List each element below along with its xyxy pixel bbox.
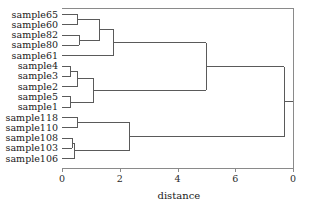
x-tick-label-1: 2 xyxy=(105,173,135,184)
x-axis-title: distance xyxy=(158,190,201,201)
x-tick-1 xyxy=(120,168,121,172)
x-tick-3 xyxy=(235,168,236,172)
x-tick-label-3: 6 xyxy=(220,173,250,184)
x-tick-2 xyxy=(178,168,179,172)
x-tick-label-4: 0 xyxy=(278,173,308,184)
x-tick-label-2: 4 xyxy=(163,173,193,184)
dendrogram-figure: sample65sample60sample82sample80sample61… xyxy=(0,0,320,214)
x-tick-0 xyxy=(62,168,63,172)
x-tick-label-0: 0 xyxy=(47,173,77,184)
x-tick-4 xyxy=(293,168,294,172)
